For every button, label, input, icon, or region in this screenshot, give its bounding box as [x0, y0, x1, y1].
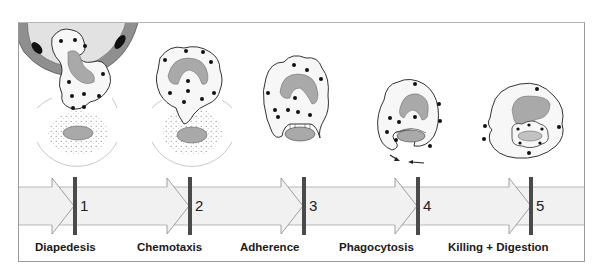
marker-4: [416, 177, 420, 235]
marker-1: [73, 177, 77, 235]
stage-label-killing-digestion: Killing + Digestion: [448, 241, 549, 253]
stage-number-5: 5: [536, 197, 544, 214]
stage-label-adherence: Adherence: [240, 241, 299, 253]
stage-number-2: 2: [195, 197, 203, 214]
stage-label-chemotaxis: Chemotaxis: [137, 241, 202, 253]
stage-number-3: 3: [309, 197, 317, 214]
stage-1-diapedesis-illustration: [14, 14, 140, 166]
phagocytosis-diagram: 1 2 3 4 5 Diapedesis Chemotaxis Adherenc…: [0, 0, 599, 274]
stage-5-killing-digestion-illustration: [482, 83, 563, 158]
stage-2-chemotaxis-illustration: [152, 47, 232, 167]
timeline: [19, 177, 584, 235]
stage-number-4: 4: [423, 197, 431, 214]
stage-3-adherence-illustration: [263, 56, 328, 141]
stage-4-phagocytosis-illustration: [378, 79, 442, 164]
marker-3: [302, 177, 306, 235]
diagram-artwork: [0, 0, 599, 274]
stage-label-diapedesis: Diapedesis: [35, 241, 96, 253]
marker-2: [188, 177, 192, 235]
stage-label-phagocytosis: Phagocytosis: [339, 241, 414, 253]
marker-5: [529, 177, 533, 235]
stage-number-1: 1: [80, 197, 88, 214]
